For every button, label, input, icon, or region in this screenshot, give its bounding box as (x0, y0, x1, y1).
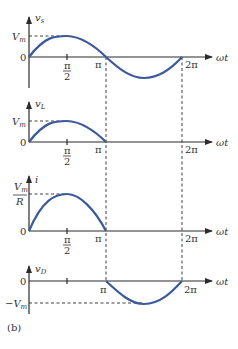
y-axis-label: vs (35, 12, 45, 25)
panel-source-voltage: vs Vm 0 π 2 π 2π ωt (12, 12, 229, 88)
x-axis-label: ωt (216, 137, 229, 148)
peak-numerator: Vm (14, 181, 28, 194)
half-pi-den: 2 (64, 245, 70, 256)
two-pi-label: 2π (184, 284, 197, 295)
load-voltage-curve (29, 121, 106, 142)
x-axis-label: ωt (216, 276, 229, 287)
half-pi-den: 2 (64, 71, 70, 82)
half-pi-den: 2 (64, 156, 70, 167)
y-axis-label: vL (35, 98, 46, 111)
panel-current: i Vm R 0 π 2 π 2π ωt (13, 174, 229, 256)
x-axis-label: ωt (216, 226, 229, 237)
two-pi-label: 2π (185, 59, 198, 70)
neg-peak-label: −Vm (5, 298, 28, 311)
half-pi-num: π (64, 145, 71, 156)
zero-label: 0 (20, 137, 26, 148)
pi-label: π (95, 144, 102, 155)
peak-label: Vm (12, 116, 26, 129)
pi-label: π (95, 233, 102, 244)
pi-label: π (95, 59, 102, 70)
half-pi-num: π (64, 60, 71, 71)
zero-label: 0 (20, 276, 26, 287)
diode-voltage-curve (106, 281, 182, 304)
zero-label: 0 (20, 226, 26, 237)
peak-label: Vm (12, 31, 26, 44)
two-pi-label: 2π (185, 233, 198, 244)
peak-denominator: R (15, 196, 24, 207)
figure-label: (b) (7, 322, 21, 333)
half-pi-num: π (64, 234, 71, 245)
rectifier-waveforms-diagram: vs Vm 0 π 2 π 2π ωt vL Vm 0 π 2 π 2π ωt … (0, 0, 238, 349)
panel-diode-voltage: vD 0 −Vm π 2π ωt (5, 263, 229, 314)
zero-label: 0 (20, 52, 26, 63)
two-pi-label: 2π (185, 144, 198, 155)
current-curve (29, 194, 106, 231)
x-axis-label: ωt (216, 52, 229, 63)
guide-lines (106, 57, 182, 281)
pi-label: π (100, 284, 107, 295)
y-axis-label: i (35, 174, 38, 185)
panel-load-voltage: vL Vm 0 π 2 π 2π ωt (12, 98, 229, 167)
y-axis-label: vD (35, 263, 47, 276)
